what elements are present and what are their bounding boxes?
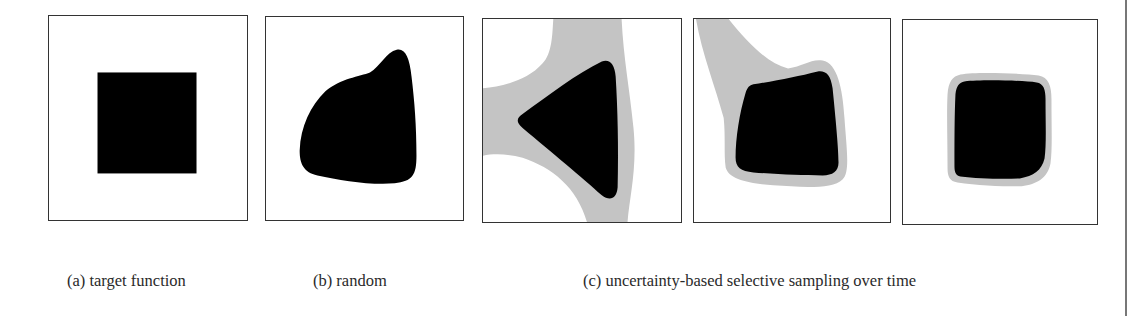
selective-sampling-plot-1 — [483, 19, 681, 222]
selective-sampling-plot-3 — [903, 20, 1097, 224]
learned-region — [954, 80, 1045, 178]
selective-sampling-plot-2 — [694, 19, 890, 222]
target-region — [98, 72, 197, 173]
caption-selective-sampling: (c) uncertainty-based selective sampling… — [583, 271, 916, 291]
learned-region — [300, 49, 417, 183]
caption-target-function: (a) target function — [67, 271, 186, 291]
caption-random: (b) random — [313, 271, 387, 291]
learned-region — [736, 71, 839, 175]
panel-random — [265, 16, 464, 221]
page-margin-rule — [1125, 0, 1127, 316]
target-square-plot — [49, 16, 247, 220]
panel-selective-sampling-step-1 — [482, 18, 682, 223]
panel-selective-sampling-step-3 — [902, 19, 1098, 225]
panel-selective-sampling-step-2 — [693, 18, 891, 223]
panel-target-function — [48, 15, 248, 221]
random-sampling-plot — [266, 17, 463, 220]
